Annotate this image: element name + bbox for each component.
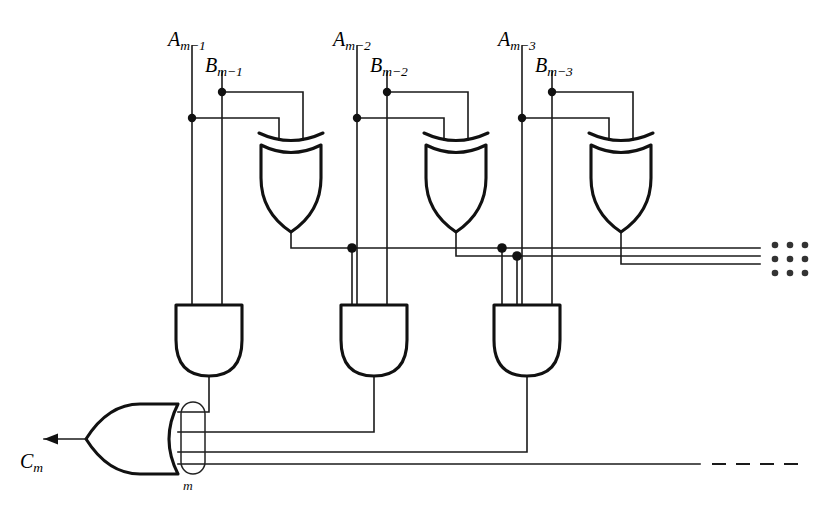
- junction-dot: [383, 88, 391, 96]
- junction-dot: [188, 114, 196, 122]
- xor-gate-2: [424, 133, 488, 232]
- signal-subscript: m−3: [510, 38, 536, 53]
- signal-subscript: m−1: [217, 64, 243, 79]
- xor-gate-1: [259, 133, 323, 232]
- continuation-dots: [772, 242, 809, 277]
- signal-base: B: [205, 54, 217, 76]
- junction-dot: [218, 88, 226, 96]
- xor-gate-3: [589, 133, 653, 232]
- signal-base: B: [535, 54, 547, 76]
- signal-subscript: m−2: [345, 38, 371, 53]
- signal-label-b-m-3: Bm−3: [535, 54, 573, 77]
- and-gate-2: [341, 305, 407, 376]
- and-gate-1: [176, 305, 242, 376]
- signal-subscript: m−3: [547, 64, 573, 79]
- junction-dot: [347, 243, 357, 253]
- junction-dot: [353, 114, 361, 122]
- or-gate-1: [44, 404, 178, 474]
- signal-subscript: m−1: [180, 38, 206, 53]
- signal-base: A: [498, 28, 510, 50]
- circuit-svg: [0, 0, 829, 517]
- signal-label-a-m-2: Am−2: [333, 28, 371, 51]
- signal-base: B: [370, 54, 382, 76]
- signal-subscript: m−2: [382, 64, 408, 79]
- signal-label-c-m: Cm: [20, 450, 43, 473]
- junction-dot: [548, 88, 556, 96]
- signal-base: A: [333, 28, 345, 50]
- signal-base: C: [20, 450, 33, 472]
- junction-dot: [518, 114, 526, 122]
- signal-label-a-m-3: Am−3: [498, 28, 536, 51]
- and-gate-3: [494, 305, 560, 376]
- circuit-diagram: Am−1 Bm−1 Am−2 Bm−2 Am−3 Bm−3 Cm m: [0, 0, 829, 517]
- xor-output-buses: [347, 243, 760, 305]
- signal-label-b-m-1: Bm−1: [205, 54, 243, 77]
- bundle-label-m: m: [183, 478, 193, 494]
- junction-dot: [512, 251, 522, 261]
- and-output-wires: [178, 376, 700, 464]
- signal-label-b-m-2: Bm−2: [370, 54, 408, 77]
- signal-subscript: m: [33, 460, 43, 475]
- signal-label-a-m-1: Am−1: [168, 28, 206, 51]
- junction-dot: [497, 243, 507, 253]
- signal-base: A: [168, 28, 180, 50]
